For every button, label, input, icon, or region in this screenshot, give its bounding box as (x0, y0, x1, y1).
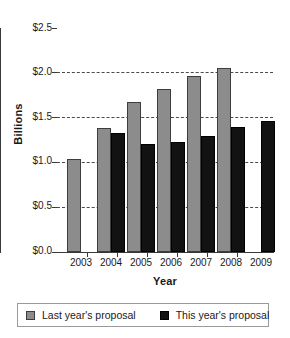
bar-group (157, 28, 185, 252)
y-axis-tick-label: $2.0 (6, 67, 52, 77)
y-axis-tick-labels: $2.5 $2.0 $1.5 $1.0 $0.5 $0.0 (0, 0, 52, 338)
bar-this-year-2006 (171, 142, 185, 252)
bar-group (217, 28, 245, 252)
legend-entry-last-year: Last year's proposal (26, 309, 136, 321)
plot-area (57, 28, 273, 252)
x-axis-tick-label: 2008 (214, 257, 248, 269)
legend-entry-this-year: This year's proposal (160, 309, 270, 321)
bar-group (127, 28, 155, 252)
chart-legend: Last year's proposal This year's proposa… (17, 303, 269, 327)
x-axis-line (57, 252, 274, 253)
bar-this-year-2009 (261, 121, 275, 252)
bar-last-year-2007 (187, 76, 201, 252)
legend-swatch-icon-this-year (160, 311, 169, 320)
bar-group (97, 28, 125, 252)
x-axis-tick-label: 2006 (154, 257, 188, 269)
bar-last-year-2005 (127, 102, 141, 252)
bar-last-year-2006 (157, 89, 171, 252)
bar-group (67, 28, 95, 252)
x-axis-tick-label: 2007 (184, 257, 218, 269)
x-axis-tick-labels: 2003 2004 2005 2006 2007 2008 2009 (57, 257, 273, 271)
bar-this-year-2005 (141, 144, 155, 252)
y-axis-tick-label: $0.0 (6, 246, 52, 256)
legend-label-last-year: Last year's proposal (42, 309, 136, 321)
y-axis-tick-label: $1.5 (6, 112, 52, 122)
bar-chart-figure: Billions $2.5 $2.0 $1.5 $1.0 $0.5 $0.0 (0, 0, 290, 338)
y-axis-tick-label: $1.0 (6, 156, 52, 166)
x-axis-tick-label: 2004 (94, 257, 128, 269)
legend-swatch-icon-last-year (26, 311, 35, 320)
x-axis-tick-label: 2003 (64, 257, 98, 269)
bar-group (187, 28, 215, 252)
bar-this-year-2007 (201, 136, 215, 252)
legend-label-this-year: This year's proposal (176, 309, 270, 321)
bar-this-year-2004 (111, 133, 125, 252)
y-axis-tick-label: $0.5 (6, 201, 52, 211)
bar-last-year-2008 (217, 68, 231, 252)
bar-group (247, 28, 275, 252)
bar-this-year-2008 (231, 127, 245, 252)
x-axis-tick-label: 2005 (124, 257, 158, 269)
y-axis-tick-label: $2.5 (6, 23, 52, 33)
bar-last-year-2004 (97, 128, 111, 252)
x-axis-title: Year (57, 275, 273, 287)
x-axis-tick-label: 2009 (244, 257, 278, 269)
bar-last-year-2003 (67, 159, 81, 252)
y-axis-line (0, 28, 1, 253)
